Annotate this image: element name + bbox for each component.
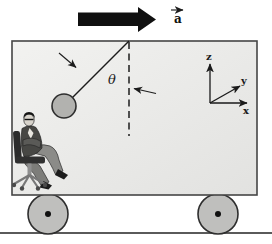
chair-caster [20, 186, 24, 190]
chair-seat [15, 157, 45, 164]
chair-caster [12, 183, 16, 187]
theta-label: θ [108, 72, 116, 87]
physics-diagram: θ z x y a [0, 0, 272, 244]
diagram-canvas: θ z x y a [0, 0, 272, 244]
acceleration-letter: a [174, 12, 182, 26]
axis-label-x: x [243, 105, 250, 116]
axis-label-z: z [206, 51, 212, 62]
right-wheel-hub [215, 211, 221, 217]
right-wheel [198, 194, 238, 234]
chair-column [28, 164, 32, 177]
pendulum-bob [52, 94, 76, 118]
axis-label-y: y [240, 75, 248, 86]
acceleration-vector-label: a [171, 10, 183, 26]
left-wheel [28, 194, 68, 234]
left-wheel-hub [45, 211, 51, 217]
chair-caster [43, 183, 47, 187]
cart-body [12, 41, 257, 195]
chair-caster [36, 186, 40, 190]
acceleration-arrow [78, 7, 156, 32]
